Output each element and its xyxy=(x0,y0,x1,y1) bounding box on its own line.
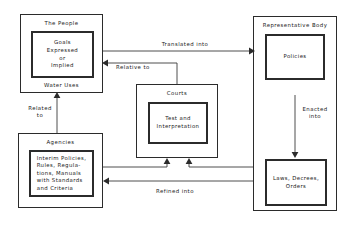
edge-laws-to-courts xyxy=(186,158,253,167)
diagram-canvas: The People Goals Expressed or Implied Wa… xyxy=(0,0,354,228)
edge-translated-into xyxy=(103,48,255,55)
edge-label-related-to: Related to xyxy=(26,105,54,120)
edge-related-to xyxy=(54,92,61,133)
node-agencies[interactable]: Agencies Interim Policies, Rules, Regula… xyxy=(18,133,103,208)
laws-decrees-orders-box[interactable]: Laws, Decrees, Orders xyxy=(265,159,327,206)
edge-label-relative-to: Relative to xyxy=(116,64,166,71)
agencies-title: Agencies xyxy=(19,139,102,145)
the-people-goals-box[interactable]: Goals Expressed or Implied xyxy=(31,31,94,78)
node-courts[interactable]: Courts Test and Interpretation xyxy=(136,84,218,158)
policies-box[interactable]: Policies xyxy=(265,34,325,80)
the-people-title: The People xyxy=(21,20,102,26)
courts-test-interpretation-box[interactable]: Test and Interpretation xyxy=(148,102,208,144)
edge-agencies-to-courts xyxy=(103,158,170,167)
courts-test-interpretation-text: Test and Interpretation xyxy=(155,115,202,130)
policies-text: Policies xyxy=(281,53,308,61)
edge-label-enacted-into: Enacted into xyxy=(299,106,331,121)
the-people-goals-text: Goals Expressed or Implied xyxy=(45,39,80,69)
edge-label-translated-into: Translated into xyxy=(150,41,220,48)
agencies-interim-policies-text: Interim Policies, Rules, Regula- tions, … xyxy=(35,155,89,193)
node-the-people[interactable]: The People Goals Expressed or Implied Wa… xyxy=(20,14,103,93)
the-people-water-uses-label: Water Uses xyxy=(21,82,102,88)
courts-title: Courts xyxy=(137,90,217,96)
edge-refined-into xyxy=(103,178,253,185)
edge-label-refined-into: Refined into xyxy=(140,188,210,195)
laws-decrees-orders-text: Laws, Decrees, Orders xyxy=(271,175,321,190)
representative-body-title: Representative Body xyxy=(254,22,336,28)
agencies-interim-policies-box[interactable]: Interim Policies, Rules, Regula- tions, … xyxy=(29,150,94,197)
